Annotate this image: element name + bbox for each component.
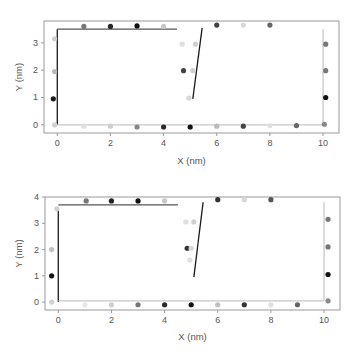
data-point: [215, 197, 220, 202]
data-point: [268, 302, 273, 307]
x-tick-label: 10: [319, 315, 329, 325]
data-point: [189, 246, 194, 251]
x-tick-label: 0: [55, 138, 60, 148]
y-tick-label: 0: [34, 297, 39, 307]
data-point: [242, 302, 247, 307]
data-point: [181, 68, 186, 73]
data-point: [325, 244, 330, 249]
data-point: [325, 298, 330, 303]
plot-frame: [44, 21, 339, 133]
data-point: [108, 24, 113, 29]
data-point: [84, 198, 89, 203]
data-point: [295, 302, 300, 307]
data-point: [294, 123, 299, 128]
top-plot-panel: 02468100123X (nm)Y (nm): [13, 21, 339, 166]
x-tick-label: 4: [162, 315, 167, 325]
data-point: [109, 302, 114, 307]
data-point: [161, 24, 166, 29]
x-tick-label: 6: [215, 315, 220, 325]
data-point: [215, 302, 220, 307]
data-point: [190, 68, 195, 73]
y-tick-label: 1: [33, 92, 38, 102]
data-point: [214, 22, 219, 27]
y-tick-label: 1: [34, 271, 39, 281]
bottom-plot-panel: 024681001234X (nm)Y (nm): [13, 192, 340, 342]
y-tick-label: 3: [34, 218, 39, 228]
data-point: [52, 122, 57, 127]
y-tick-label: 2: [33, 65, 38, 75]
y-tick-label: 3: [33, 38, 38, 48]
data-point: [134, 124, 139, 129]
y-tick-label: 0: [33, 120, 38, 130]
data-point: [52, 69, 57, 74]
data-point: [193, 42, 198, 47]
data-point: [109, 198, 114, 203]
middle-wall-line: [193, 28, 202, 99]
figure: 02468100123X (nm)Y (nm) 024681001234X (n…: [0, 0, 357, 356]
data-point: [161, 124, 166, 129]
data-point: [81, 24, 86, 29]
x-tick-label: 0: [56, 315, 61, 325]
data-point: [188, 124, 193, 129]
data-point: [267, 123, 272, 128]
data-point: [187, 257, 192, 262]
x-tick-label: 8: [268, 315, 273, 325]
x-tick-label: 10: [318, 138, 328, 148]
x-tick-label: 2: [109, 315, 114, 325]
data-point: [183, 219, 188, 224]
data-point: [134, 23, 139, 28]
data-point: [267, 22, 272, 27]
data-point: [241, 124, 246, 129]
data-point: [268, 197, 273, 202]
x-tick-label: 4: [161, 138, 166, 148]
data-point: [108, 124, 113, 129]
plot-frame: [45, 197, 340, 310]
data-point: [52, 36, 57, 41]
x-tick-label: 6: [214, 138, 219, 148]
data-point: [325, 217, 330, 222]
data-point: [189, 302, 194, 307]
middle-wall-line: [194, 202, 203, 277]
data-point: [325, 272, 330, 277]
data-point: [51, 96, 56, 101]
data-point: [323, 95, 328, 100]
data-point: [214, 124, 219, 129]
data-point: [323, 68, 328, 73]
data-point: [54, 206, 59, 211]
data-point: [49, 247, 54, 252]
data-point: [241, 22, 246, 27]
data-point: [82, 302, 87, 307]
data-point: [323, 42, 328, 47]
data-point: [180, 42, 185, 47]
data-point: [242, 197, 247, 202]
data-point: [135, 302, 140, 307]
data-point: [322, 122, 327, 127]
data-point: [162, 302, 167, 307]
data-point: [186, 95, 191, 100]
x-axis-title: X (nm): [178, 331, 207, 342]
x-axis-title: X (nm): [177, 155, 206, 166]
x-tick-label: 2: [108, 138, 113, 148]
data-point: [49, 300, 54, 305]
y-axis-title: Y (nm): [13, 239, 24, 267]
x-tick-label: 8: [267, 138, 272, 148]
data-point: [49, 273, 54, 278]
y-tick-label: 4: [34, 192, 39, 202]
data-point: [81, 124, 86, 129]
data-point: [162, 198, 167, 203]
data-point: [191, 219, 196, 224]
y-axis-title: Y (nm): [13, 63, 24, 91]
y-tick-label: 2: [34, 245, 39, 255]
data-point: [135, 198, 140, 203]
